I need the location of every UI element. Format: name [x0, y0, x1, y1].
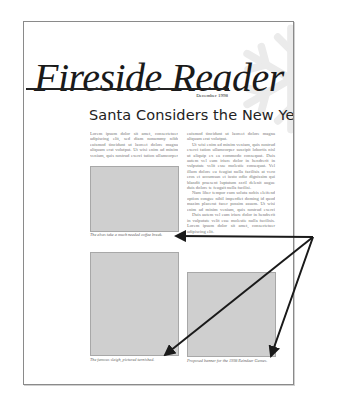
image-caption-3: Proposed banner for the 1998 Reindeer Ga…: [187, 358, 267, 363]
image-placeholder-2[interactable]: [90, 252, 179, 356]
body-paragraph: euismod tincidunt ut laoreet dolore magn…: [187, 131, 275, 142]
image-caption-2: The famous sleigh, pictured tarnished.: [90, 357, 154, 362]
masthead-title: Fireside Reader: [34, 58, 284, 98]
masthead-rule: [26, 88, 229, 90]
issue-date: December 1998: [196, 93, 228, 98]
body-paragraph: Duis autem vel eum iriure dolor in hendr…: [187, 212, 275, 234]
article-headline: Santa Considers the New Year: [89, 107, 294, 123]
newsletter-page: Fireside Reader December 1998 Santa Cons…: [23, 21, 294, 385]
image-placeholder-3[interactable]: [187, 272, 276, 357]
body-paragraph: Nam liber tempor cum soluta nobis eleife…: [187, 190, 275, 212]
body-paragraph: Ut wisi enim ad minim veniam, quis nostr…: [187, 142, 275, 191]
left-text-column: Lorem ipsum dolor sit amet, consectetuer…: [90, 131, 178, 158]
body-paragraph: Lorem ipsum dolor sit amet, consectetuer…: [90, 131, 178, 158]
image-placeholder-1[interactable]: [90, 166, 179, 232]
right-text-column: euismod tincidunt ut laoreet dolore magn…: [187, 131, 275, 234]
image-caption-1: The elves take a much needed coffee brea…: [90, 232, 162, 237]
